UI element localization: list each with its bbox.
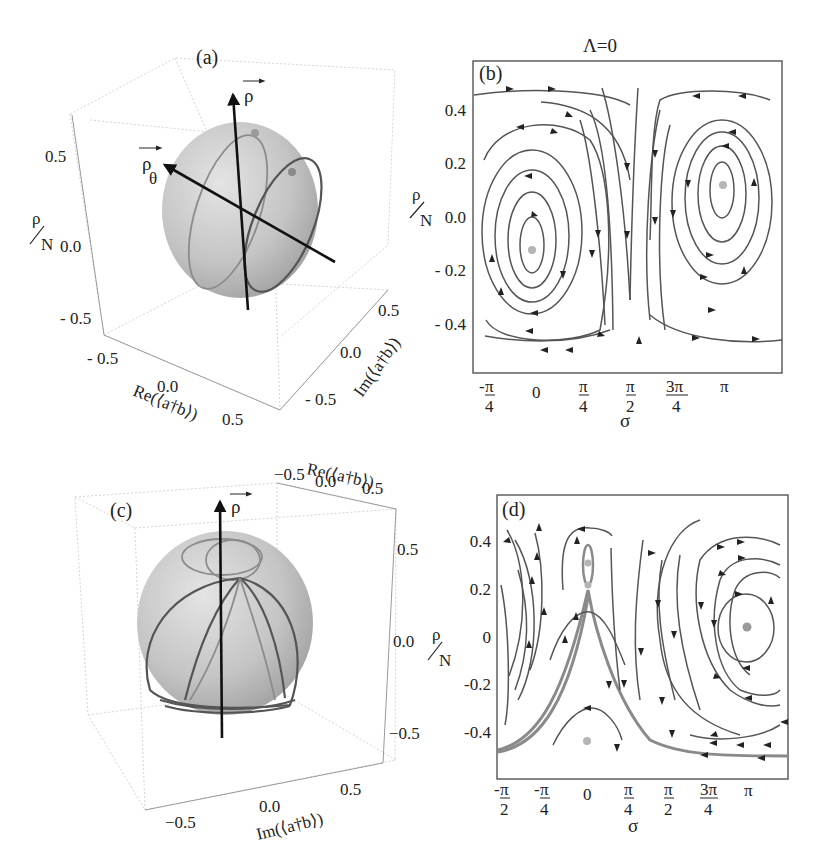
y-tick: −0.5	[165, 813, 196, 832]
x-tick: - 0.5	[87, 349, 118, 368]
tick-den: 2	[664, 800, 673, 819]
tick-num: π	[540, 780, 549, 799]
y-tick: -0.2	[464, 675, 491, 694]
y-tick: 0.5	[340, 780, 361, 799]
fixed-point-marker	[743, 623, 752, 632]
y-tick: 0.0	[340, 343, 361, 362]
tick-num: 3π	[666, 377, 684, 396]
y-tick: 0.4	[470, 532, 492, 551]
panel-c: (c) ρ Re(⟨a†b⟩) −0.5 0.0 0.5 0.5 0.0 −0.…	[75, 459, 451, 844]
y-tick: 0.2	[470, 580, 491, 599]
y-tick: 0.4	[445, 101, 467, 120]
y-ticks-b: 0.4 0.2 0.0 - 0.2 - 0.4	[435, 101, 467, 334]
z-tick: 0.0	[60, 237, 81, 256]
y-tick: 0	[483, 628, 492, 647]
figure-canvas: (a) ρ ρ θ 0.5 0.0 - 0.5 ρ N - 0.5 0.0 0.…	[0, 0, 821, 868]
y-ticks-d: 0.4 0.2 0 -0.2 -0.4	[464, 532, 491, 742]
separatrix-curve	[498, 598, 588, 752]
streamlines-d	[501, 520, 780, 745]
panel-a: (a) ρ ρ θ 0.5 0.0 - 0.5 ρ N - 0.5 0.0 0.…	[30, 46, 404, 429]
y-tick: - 0.4	[435, 315, 467, 334]
z-axis-line-a	[72, 115, 104, 335]
theta-subscript: θ	[149, 169, 157, 188]
tick-num: π	[500, 780, 509, 799]
tick-num: π	[624, 780, 633, 799]
tick-den: 4	[485, 397, 494, 416]
y-tick: - 0.2	[435, 261, 466, 280]
z-tick: - 0.5	[60, 309, 91, 328]
arrowheads-d	[503, 523, 788, 761]
x-tick: 0.5	[222, 410, 243, 429]
y-tick: 0.0	[445, 208, 466, 227]
x-ticks-d: - π 2 - π 4 0 π 4 π 2	[494, 780, 753, 819]
panel-label-c: (c)	[110, 499, 132, 522]
panel-title-lambda: Λ=0	[583, 35, 617, 56]
y-tick: 0.0	[259, 797, 280, 816]
panel-label-b: (b)	[479, 62, 502, 85]
tick-num: π	[485, 377, 494, 396]
panel-d: (d) 0.4 0.2 0 -0.2 -0.4 - π 2 - π 4 0	[464, 495, 788, 836]
y-tick: - 0.5	[305, 390, 336, 409]
y-tick: 0.2	[445, 154, 466, 173]
z-tick: 0.5	[397, 540, 418, 559]
panel-label-a: (a)	[196, 46, 218, 69]
tick-pi: π	[720, 377, 729, 396]
tick-den: 4	[704, 800, 713, 819]
z-tick: 0.5	[45, 147, 66, 166]
tick-num: π	[626, 377, 635, 396]
x-axis-line-a	[104, 335, 280, 410]
tick-num: π	[664, 780, 673, 799]
x-label-sigma: σ	[628, 815, 638, 836]
tick-den: 4	[672, 397, 681, 416]
tick-den: 4	[579, 397, 588, 416]
y-tick: 0.5	[378, 301, 399, 320]
panel-label-d: (d)	[502, 498, 525, 521]
tick-zero: 0	[532, 383, 541, 402]
x-label-sigma: σ	[620, 410, 630, 431]
x-tick: 0.5	[362, 479, 383, 498]
fixed-point-marker	[585, 560, 592, 567]
rho-vector-label: ρ	[244, 85, 253, 106]
fixed-point-marker	[585, 582, 592, 589]
tick-den: 4	[540, 800, 549, 819]
z-label-denominator: N	[41, 235, 53, 254]
z-tick: 0.0	[393, 632, 414, 651]
tick-zero: 0	[583, 785, 592, 804]
z-tick: −0.5	[389, 724, 420, 743]
y-label-numerator: ρ	[412, 185, 420, 204]
tick-num: 3π	[700, 780, 718, 799]
y-label-denominator: N	[420, 211, 432, 230]
panel-b: Λ=0 (b) 0.4 0.2 0.0 - 0.2 - 0.4 ρ N - π …	[410, 35, 782, 431]
x-ticks-b: - π 4 0 π 4 π 2 3π 4 π	[479, 377, 729, 416]
x-tick: 0.0	[315, 472, 336, 491]
bloch-sphere-c	[137, 531, 313, 715]
z-label-numerator: ρ	[432, 625, 440, 644]
x-tick: −0.5	[274, 465, 305, 484]
fixed-point-marker	[251, 129, 259, 137]
fixed-point-marker	[288, 168, 296, 176]
fixed-point-marker	[719, 181, 727, 189]
rho-vector-label: ρ	[231, 496, 240, 517]
tick-pi: π	[744, 781, 753, 800]
fixed-point-marker	[583, 737, 591, 745]
plot-frame-b	[473, 61, 782, 373]
z-label-denominator: N	[439, 651, 451, 670]
fixed-point-marker	[528, 246, 536, 254]
tick-num: π	[579, 377, 588, 396]
z-label-numerator: ρ	[32, 209, 40, 228]
y-tick: -0.4	[464, 723, 491, 742]
tick-den: 2	[500, 800, 509, 819]
